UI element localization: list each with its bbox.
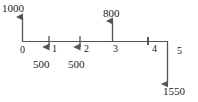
period-label-5: 5 bbox=[177, 46, 182, 56]
period-label-0: 0 bbox=[20, 45, 25, 55]
period-label-1: 1 bbox=[52, 44, 57, 54]
cash-flow-diagram: 1000 800 500 500 1550 0 1 2 3 4 5 bbox=[0, 0, 198, 102]
amount-label-outflow-t2: 500 bbox=[68, 59, 85, 70]
amount-label-inflow-t3: 800 bbox=[103, 8, 120, 19]
amount-label-inflow-t0: 1000 bbox=[2, 3, 24, 14]
period-label-2: 2 bbox=[84, 44, 89, 54]
amount-label-outflow-t1: 500 bbox=[33, 59, 50, 70]
period-label-3: 3 bbox=[113, 44, 118, 54]
amount-label-outflow-t5: 1550 bbox=[163, 86, 185, 97]
period-label-4: 4 bbox=[152, 44, 157, 54]
